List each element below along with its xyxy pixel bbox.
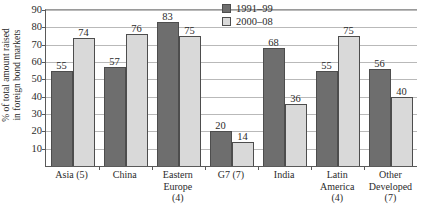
bar-value-label: 55 — [321, 60, 332, 71]
x-axis-category-label-line: Latin — [311, 169, 364, 181]
bar-group: 5776 — [99, 10, 152, 166]
y-axis-title: % of total amount raised in foreign bond… — [0, 0, 24, 170]
bar[interactable]: 40 — [391, 97, 413, 166]
bar-value-label: 76 — [131, 23, 142, 34]
x-axis-category-label-line: Eastern — [151, 169, 204, 181]
bar-value-label: 68 — [268, 37, 279, 48]
bar-value-label: 75 — [184, 25, 195, 36]
bar-group: 8375 — [152, 10, 205, 166]
bar-value-label: 75 — [343, 25, 354, 36]
x-axis-category-label-line: Developed — [364, 181, 417, 193]
x-axis-category-label: OtherDeveloped(7) — [364, 169, 417, 204]
bar[interactable]: 83 — [157, 22, 179, 166]
x-axis-category-label: LatinAmerica(4) — [311, 169, 364, 204]
bar-value-label: 40 — [396, 86, 407, 97]
plot-area: 102030405060708090 557457768375201468365… — [45, 9, 417, 167]
x-axis-category-label: G7 (7) — [204, 169, 257, 204]
bar[interactable]: 75 — [179, 36, 201, 166]
bar[interactable]: 55 — [51, 71, 73, 166]
x-axis-category-label: Asia (5) — [45, 169, 98, 204]
x-axis-category-label-line: Asia (5) — [45, 169, 98, 181]
bar-group: 2014 — [205, 10, 258, 166]
bar[interactable]: 36 — [285, 104, 307, 166]
bar-value-label: 36 — [290, 93, 301, 104]
y-axis-tick-label: 40 — [32, 91, 43, 102]
x-axis-category-label-line: America — [311, 181, 364, 193]
y-axis-title-line-2: in foreign bond markets — [12, 5, 23, 145]
y-axis-tick-label: 80 — [32, 22, 43, 33]
y-axis-tick-label: 90 — [32, 5, 43, 16]
x-axis-category-label-line: Other — [364, 169, 417, 181]
bar-value-label: 14 — [237, 131, 248, 142]
chart-legend: 1991–992000–08 — [222, 3, 273, 27]
y-axis-tick-label: 30 — [32, 109, 43, 120]
y-axis-tick-label: 60 — [32, 57, 43, 68]
bar[interactable]: 68 — [263, 48, 285, 166]
bar-value-label: 55 — [56, 60, 67, 71]
legend-swatch-icon — [222, 4, 231, 13]
bar[interactable]: 74 — [73, 38, 95, 166]
x-axis-category-label-line: G7 (7) — [204, 169, 257, 181]
bar-value-label: 20 — [215, 120, 226, 131]
bar[interactable]: 20 — [210, 131, 232, 166]
x-axis-category-label: China — [98, 169, 151, 204]
y-axis-title-line-1: % of total amount raised — [1, 5, 12, 145]
x-axis-category-label: India — [258, 169, 311, 204]
x-axis-category-label-line: (4) — [311, 192, 364, 204]
bar-chart-figure: % of total amount raised in foreign bond… — [0, 0, 423, 205]
y-axis-tick-label: 70 — [32, 39, 43, 50]
x-axis-category-label-line: (4) — [151, 192, 204, 204]
bar[interactable]: 76 — [126, 34, 148, 166]
bar-group: 5575 — [311, 10, 364, 166]
bar-value-label: 74 — [78, 27, 89, 38]
legend-item[interactable]: 1991–99 — [222, 3, 273, 14]
bar-value-label: 56 — [374, 58, 385, 69]
x-axis-category-label-line: (7) — [364, 192, 417, 204]
y-axis-tick-label: 50 — [32, 74, 43, 85]
legend-label: 1991–99 — [236, 3, 273, 14]
x-axis-category-label-line: Europe — [151, 181, 204, 193]
bar-group: 5640 — [364, 10, 417, 166]
bar[interactable]: 14 — [232, 142, 254, 166]
y-axis-tick-label: 20 — [32, 126, 43, 137]
x-axis-labels: Asia (5)ChinaEasternEurope(4)G7 (7)India… — [45, 169, 417, 204]
bar-group: 5574 — [46, 10, 99, 166]
bar-groups: 5574577683752014683655755640 — [46, 10, 417, 166]
x-axis-category-label: EasternEurope(4) — [151, 169, 204, 204]
x-axis-category-label-line: India — [258, 169, 311, 181]
bar-value-label: 83 — [162, 11, 173, 22]
bar[interactable]: 57 — [104, 67, 126, 166]
bar[interactable]: 56 — [369, 69, 391, 166]
legend-item[interactable]: 2000–08 — [222, 16, 273, 27]
legend-label: 2000–08 — [236, 16, 273, 27]
bar[interactable]: 55 — [316, 71, 338, 166]
x-axis-category-label-line: China — [98, 169, 151, 181]
y-axis-tick-label: 10 — [32, 143, 43, 154]
bar[interactable]: 75 — [338, 36, 360, 166]
legend-swatch-icon — [222, 17, 231, 26]
bar-group: 6836 — [258, 10, 311, 166]
bar-value-label: 57 — [109, 56, 120, 67]
